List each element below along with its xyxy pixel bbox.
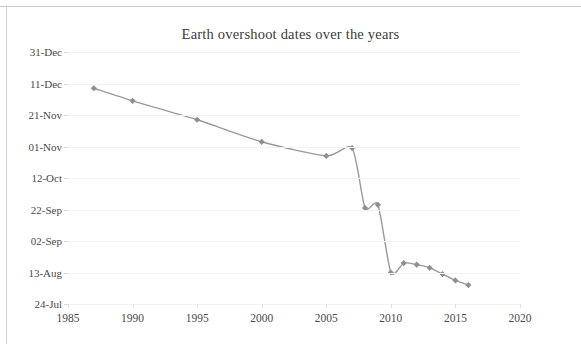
x-axis-tick-label: 1985 [57, 312, 80, 324]
gridline-horizontal [68, 178, 520, 179]
x-axis-labels: 19851990199520002005201020152020 [68, 304, 520, 334]
data-point-marker [427, 265, 433, 271]
y-axis-tick-label: 22-Sep [31, 204, 62, 216]
x-axis-tick-label: 2010 [379, 312, 402, 324]
x-axis-tick-label: 2020 [509, 312, 532, 324]
plot-area [68, 52, 520, 304]
y-tick-mark [64, 84, 68, 85]
data-point-marker [465, 282, 471, 288]
x-axis-tick-label: 2000 [250, 312, 273, 324]
x-axis-tick-label: 1995 [186, 312, 209, 324]
gridline-horizontal [68, 115, 520, 116]
y-axis-tick-label: 31-Dec [30, 46, 62, 58]
y-axis-tick-label: 13-Aug [28, 267, 62, 279]
gridline-horizontal [68, 147, 520, 148]
series-line [94, 88, 469, 285]
y-tick-mark [64, 273, 68, 274]
data-point-marker [194, 117, 200, 123]
gridline-horizontal [68, 241, 520, 242]
data-point-marker [259, 139, 265, 145]
x-axis-tick-label: 2005 [315, 312, 338, 324]
gridline-horizontal [68, 84, 520, 85]
y-axis-labels: 31-Dec11-Dec21-Nov01-Nov12-Oct22-Sep02-S… [8, 52, 62, 304]
data-point-marker [91, 85, 97, 91]
gridline-horizontal [68, 210, 520, 211]
y-tick-mark [64, 52, 68, 53]
y-axis-tick-label: 21-Nov [28, 109, 62, 121]
y-tick-mark [64, 210, 68, 211]
x-tick-mark [520, 304, 521, 308]
data-point-marker [129, 98, 135, 104]
y-axis-tick-label: 01-Nov [28, 141, 62, 153]
page-border-top [0, 6, 581, 7]
y-tick-mark [64, 115, 68, 116]
x-axis-tick-label: 1990 [121, 312, 144, 324]
y-axis-tick-label: 24-Jul [35, 298, 63, 310]
chart-title: Earth overshoot dates over the years [0, 26, 581, 43]
page-border-left [6, 6, 7, 344]
data-point-marker [323, 153, 329, 159]
data-point-marker [414, 262, 420, 268]
y-axis-tick-label: 02-Sep [31, 235, 62, 247]
gridline-horizontal [68, 273, 520, 274]
chart-figure: Earth overshoot dates over the years 31-… [0, 0, 581, 344]
gridline-horizontal [68, 52, 520, 53]
y-axis-tick-label: 11-Dec [30, 78, 62, 90]
y-tick-mark [64, 241, 68, 242]
y-tick-mark [64, 178, 68, 179]
data-point-marker [452, 277, 458, 283]
y-tick-mark [64, 147, 68, 148]
y-axis-tick-label: 12-Oct [31, 172, 62, 184]
x-axis-tick-label: 2015 [444, 312, 467, 324]
